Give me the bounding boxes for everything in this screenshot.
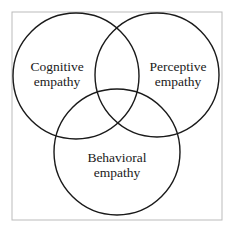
frame-border <box>12 12 222 220</box>
behavioral-label-line2: empathy <box>94 165 141 180</box>
perceptive-label-line1: Perceptive <box>150 59 207 74</box>
cognitive-label-line2: empathy <box>34 74 81 89</box>
cognitive-label-line1: Cognitive <box>30 59 83 74</box>
perceptive-label-line2: empathy <box>155 74 202 89</box>
behavioral-label-line1: Behavioral <box>87 150 146 165</box>
venn-diagram: Cognitive empathy Perceptive empathy Beh… <box>0 0 233 232</box>
